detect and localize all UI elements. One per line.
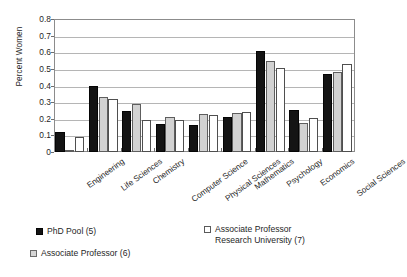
bar bbox=[108, 99, 117, 152]
bar bbox=[299, 123, 308, 152]
bar bbox=[132, 104, 141, 152]
bar bbox=[209, 115, 218, 152]
y-tick-label: 0.3 bbox=[11, 97, 51, 107]
bar bbox=[256, 51, 265, 152]
bar-group bbox=[288, 19, 321, 152]
legend-label: Associate Professor (6) bbox=[41, 248, 130, 259]
legend-swatch-icon bbox=[36, 228, 43, 235]
legend-label: PhD Pool (5) bbox=[47, 226, 96, 237]
bar bbox=[276, 68, 285, 152]
bar bbox=[165, 117, 174, 152]
bar bbox=[223, 117, 232, 152]
y-tick-label: 0.4 bbox=[11, 81, 51, 91]
bars-layer bbox=[54, 19, 355, 152]
y-tick-label: 0.1 bbox=[11, 130, 51, 140]
y-tick-label: 0.2 bbox=[11, 114, 51, 124]
bar-group bbox=[121, 19, 154, 152]
legend-entry: PhD Pool (5) bbox=[36, 226, 96, 237]
bar bbox=[289, 110, 298, 152]
bar bbox=[232, 113, 241, 152]
y-tick-label: 0.5 bbox=[11, 64, 51, 74]
bar bbox=[55, 132, 64, 152]
legend-swatch-icon bbox=[30, 250, 37, 257]
bar bbox=[156, 124, 165, 152]
bar-group bbox=[322, 19, 355, 152]
bar-group bbox=[87, 19, 120, 152]
bar-group bbox=[54, 19, 87, 152]
bar-group bbox=[188, 19, 221, 152]
bar bbox=[266, 61, 275, 152]
y-tick-label: 0.6 bbox=[11, 47, 51, 57]
bar-group bbox=[255, 19, 288, 152]
legend-label: Associate ProfessorResearch University (… bbox=[215, 224, 305, 246]
bar bbox=[199, 114, 208, 152]
bar bbox=[175, 120, 184, 152]
bar bbox=[142, 120, 151, 152]
bar bbox=[99, 97, 108, 152]
bar bbox=[309, 118, 318, 152]
bar bbox=[189, 125, 198, 152]
bar bbox=[75, 137, 84, 152]
legend-entry: Associate ProfessorResearch University (… bbox=[204, 224, 305, 246]
x-axis-label: Social Sciences bbox=[355, 157, 407, 198]
y-tick-label: 0.8 bbox=[11, 14, 51, 24]
x-axis-labels: EngineeringLife SciencesChemistryCompute… bbox=[0, 152, 367, 214]
y-tick-label: 0.7 bbox=[11, 31, 51, 41]
legend-entry: Associate Professor (6) bbox=[30, 248, 130, 259]
x-axis-label: Computer Science bbox=[190, 157, 250, 204]
bar bbox=[89, 86, 98, 153]
chart-legend: PhD Pool (5)Associate Professor (6)Assoc… bbox=[0, 224, 367, 277]
bar bbox=[122, 111, 131, 152]
bar bbox=[242, 112, 251, 152]
x-axis-label: Economics bbox=[318, 157, 356, 188]
bar bbox=[323, 74, 332, 152]
bar-group bbox=[154, 19, 187, 152]
legend-swatch-icon bbox=[204, 226, 211, 233]
legend-label-line2: Research University (7) bbox=[215, 235, 305, 246]
bar bbox=[342, 64, 351, 152]
bar-group bbox=[221, 19, 254, 152]
bar bbox=[333, 72, 342, 152]
